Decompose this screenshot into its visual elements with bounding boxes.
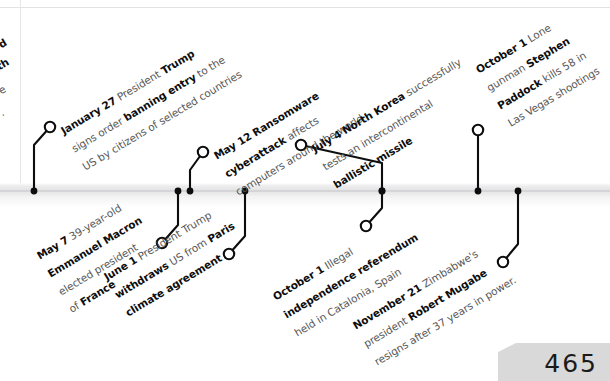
event-marker-may-12-ransomware bbox=[198, 147, 208, 157]
connector-line-nov-21-mugabe bbox=[503, 191, 518, 262]
axis-dot-may-7-macron bbox=[175, 188, 182, 195]
event-marker-jan-27-travel-ban bbox=[45, 122, 55, 132]
axis-dot-oct-1-las-vegas bbox=[475, 188, 482, 195]
event-marker-oct-1-las-vegas bbox=[473, 125, 483, 135]
axis-dot-may-12-ransomware bbox=[187, 188, 194, 195]
axis-dot-oct-1-catalonia bbox=[379, 188, 386, 195]
axis-dot-nov-21-mugabe bbox=[515, 188, 522, 195]
axis-dot-jan-27-travel-ban bbox=[31, 188, 38, 195]
timeline-page: dthe. January 27 President Trumpsigns or… bbox=[0, 0, 610, 381]
connector-line-jan-27-travel-ban bbox=[34, 127, 50, 191]
page-number: 465 bbox=[544, 349, 598, 378]
